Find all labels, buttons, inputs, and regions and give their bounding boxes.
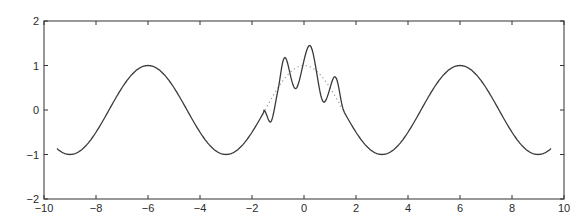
- y-tick-label: −2: [26, 193, 39, 205]
- solid-series-line: [57, 45, 551, 154]
- x-tick-label: 0: [301, 202, 307, 214]
- x-tick-label: −8: [90, 202, 103, 214]
- dotted-series-line: [265, 66, 343, 111]
- plot-area: −10−8−6−4−20246810 −2−1012: [26, 15, 570, 214]
- x-tick-label: 4: [405, 202, 411, 214]
- axes-box: [44, 21, 564, 199]
- x-tick-label: −6: [142, 202, 155, 214]
- y-tick-label: 1: [33, 60, 39, 72]
- x-tick-label: −2: [246, 202, 259, 214]
- x-tick-label: 6: [457, 202, 463, 214]
- y-tick-label: 2: [33, 15, 39, 27]
- y-tick-label: −1: [26, 149, 39, 161]
- x-tick-label: 8: [509, 202, 515, 214]
- x-tick-label: 10: [558, 202, 570, 214]
- line-chart: −10−8−6−4−20246810 −2−1012: [0, 0, 587, 223]
- y-tick-label: 0: [33, 104, 39, 116]
- y-axis-ticks: −2−1012: [26, 15, 564, 205]
- x-axis-ticks: −10−8−6−4−20246810: [35, 21, 570, 214]
- x-tick-label: 2: [353, 202, 359, 214]
- x-tick-label: −4: [194, 202, 207, 214]
